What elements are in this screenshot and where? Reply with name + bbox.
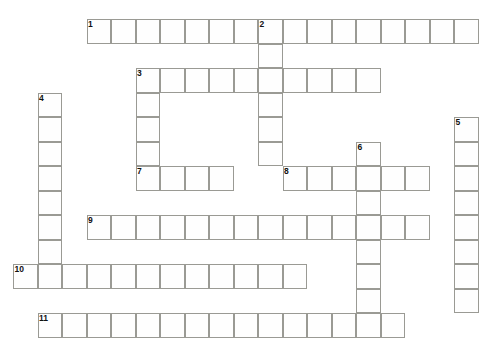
crossword-cell[interactable] xyxy=(160,19,185,44)
crossword-cell[interactable] xyxy=(38,191,63,216)
crossword-cell[interactable] xyxy=(356,68,381,93)
crossword-cell[interactable] xyxy=(136,215,161,240)
crossword-cell[interactable] xyxy=(209,19,234,44)
crossword-cell[interactable] xyxy=(258,44,283,69)
crossword-cell[interactable] xyxy=(283,264,308,289)
crossword-cell[interactable] xyxy=(111,215,136,240)
crossword-cell[interactable] xyxy=(356,289,381,314)
crossword-cell[interactable] xyxy=(356,215,381,240)
crossword-cell[interactable] xyxy=(381,313,406,338)
crossword-cell[interactable] xyxy=(185,166,210,191)
crossword-cell[interactable] xyxy=(356,166,381,191)
crossword-cell[interactable] xyxy=(356,240,381,265)
crossword-cell[interactable] xyxy=(62,313,87,338)
crossword-cell[interactable] xyxy=(356,19,381,44)
crossword-cell[interactable] xyxy=(87,264,112,289)
crossword-cell[interactable] xyxy=(209,313,234,338)
crossword-cell[interactable] xyxy=(185,313,210,338)
crossword-cell[interactable] xyxy=(283,313,308,338)
crossword-cell[interactable] xyxy=(13,264,38,289)
crossword-cell[interactable] xyxy=(454,289,479,314)
crossword-cell[interactable] xyxy=(38,215,63,240)
crossword-cell[interactable] xyxy=(38,93,63,118)
crossword-cell[interactable] xyxy=(283,19,308,44)
crossword-cell[interactable] xyxy=(258,142,283,167)
crossword-cell[interactable] xyxy=(356,191,381,216)
crossword-cell[interactable] xyxy=(258,264,283,289)
crossword-cell[interactable] xyxy=(454,117,479,142)
crossword-cell[interactable] xyxy=(160,166,185,191)
crossword-cell[interactable] xyxy=(258,68,283,93)
crossword-cell[interactable] xyxy=(38,142,63,167)
crossword-cell[interactable] xyxy=(209,68,234,93)
crossword-cell[interactable] xyxy=(38,166,63,191)
crossword-cell[interactable] xyxy=(234,313,259,338)
crossword-cell[interactable] xyxy=(209,166,234,191)
crossword-cell[interactable] xyxy=(454,240,479,265)
crossword-cell[interactable] xyxy=(38,240,63,265)
crossword-cell[interactable] xyxy=(136,142,161,167)
crossword-cell[interactable] xyxy=(405,166,430,191)
crossword-cell[interactable] xyxy=(307,166,332,191)
crossword-cell[interactable] xyxy=(356,313,381,338)
crossword-cell[interactable] xyxy=(283,215,308,240)
crossword-cell[interactable] xyxy=(381,215,406,240)
crossword-cell[interactable] xyxy=(405,215,430,240)
crossword-cell[interactable] xyxy=(356,264,381,289)
crossword-cell[interactable] xyxy=(38,264,63,289)
crossword-cell[interactable] xyxy=(307,313,332,338)
crossword-cell[interactable] xyxy=(454,215,479,240)
crossword-cell[interactable] xyxy=(283,166,308,191)
crossword-cell[interactable] xyxy=(136,264,161,289)
crossword-cell[interactable] xyxy=(160,313,185,338)
crossword-cell[interactable] xyxy=(87,313,112,338)
crossword-cell[interactable] xyxy=(185,19,210,44)
crossword-cell[interactable] xyxy=(307,19,332,44)
crossword-cell[interactable] xyxy=(234,68,259,93)
crossword-cell[interactable] xyxy=(332,166,357,191)
crossword-cell[interactable] xyxy=(87,215,112,240)
crossword-cell[interactable] xyxy=(185,264,210,289)
crossword-cell[interactable] xyxy=(381,19,406,44)
crossword-cell[interactable] xyxy=(381,166,406,191)
crossword-cell[interactable] xyxy=(87,19,112,44)
crossword-cell[interactable] xyxy=(332,68,357,93)
crossword-cell[interactable] xyxy=(62,264,87,289)
crossword-grid[interactable]: 1234567891011 xyxy=(0,0,496,353)
crossword-cell[interactable] xyxy=(332,215,357,240)
crossword-cell[interactable] xyxy=(258,93,283,118)
crossword-cell[interactable] xyxy=(185,68,210,93)
crossword-cell[interactable] xyxy=(454,19,479,44)
crossword-cell[interactable] xyxy=(258,19,283,44)
crossword-cell[interactable] xyxy=(136,19,161,44)
crossword-cell[interactable] xyxy=(209,264,234,289)
crossword-cell[interactable] xyxy=(307,68,332,93)
crossword-cell[interactable] xyxy=(160,215,185,240)
crossword-cell[interactable] xyxy=(307,215,332,240)
crossword-cell[interactable] xyxy=(234,19,259,44)
crossword-cell[interactable] xyxy=(234,215,259,240)
crossword-cell[interactable] xyxy=(454,191,479,216)
crossword-cell[interactable] xyxy=(454,264,479,289)
crossword-cell[interactable] xyxy=(234,264,259,289)
crossword-cell[interactable] xyxy=(160,264,185,289)
crossword-cell[interactable] xyxy=(185,215,210,240)
crossword-cell[interactable] xyxy=(258,313,283,338)
crossword-cell[interactable] xyxy=(332,313,357,338)
crossword-cell[interactable] xyxy=(38,117,63,142)
crossword-cell[interactable] xyxy=(258,215,283,240)
crossword-cell[interactable] xyxy=(430,19,455,44)
crossword-cell[interactable] xyxy=(258,117,283,142)
crossword-cell[interactable] xyxy=(136,166,161,191)
crossword-cell[interactable] xyxy=(136,68,161,93)
crossword-cell[interactable] xyxy=(136,313,161,338)
crossword-cell[interactable] xyxy=(38,313,63,338)
crossword-cell[interactable] xyxy=(332,19,357,44)
crossword-cell[interactable] xyxy=(111,264,136,289)
crossword-cell[interactable] xyxy=(454,142,479,167)
crossword-cell[interactable] xyxy=(454,166,479,191)
crossword-cell[interactable] xyxy=(111,313,136,338)
crossword-cell[interactable] xyxy=(136,117,161,142)
crossword-cell[interactable] xyxy=(160,68,185,93)
crossword-cell[interactable] xyxy=(111,19,136,44)
